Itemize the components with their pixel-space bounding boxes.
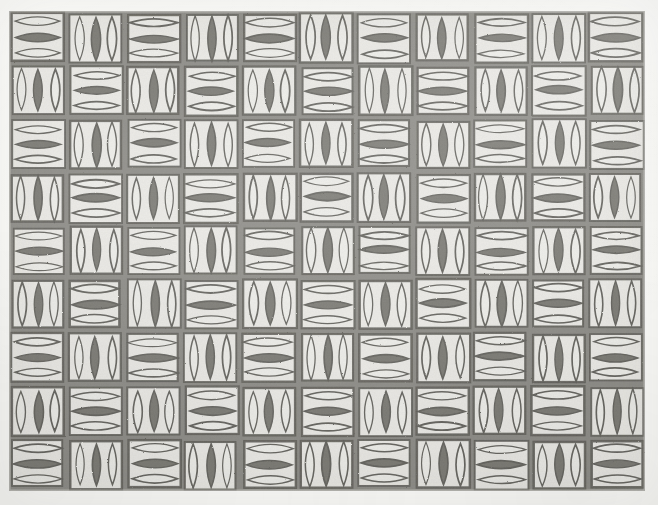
pattern-svg <box>9 11 645 491</box>
image-canvas: Close-up photograph of a grey and cream … <box>0 0 658 505</box>
printed-pattern-plate <box>9 11 645 491</box>
